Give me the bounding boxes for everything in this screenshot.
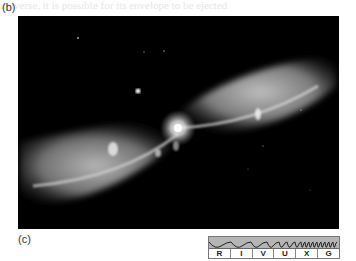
spectrum-bar: R I V U X G: [208, 236, 340, 259]
band-xray: X: [296, 249, 318, 258]
nebula-image: [18, 16, 339, 229]
nebula-photo: [18, 16, 339, 229]
band-radio: R: [209, 249, 231, 258]
band-ultraviolet: U: [274, 249, 296, 258]
band-infrared: I: [231, 249, 253, 258]
band-gamma: G: [318, 249, 339, 258]
bleed-through-text: universe, it is possible for its envelop…: [0, 0, 356, 14]
spectrum-band-labels: R I V U X G: [209, 249, 339, 258]
panel-b-label: (b): [2, 1, 15, 13]
band-visible: V: [253, 249, 275, 258]
panel-c-label: (c): [18, 233, 31, 245]
wavelength-wave-icon: [209, 237, 339, 249]
